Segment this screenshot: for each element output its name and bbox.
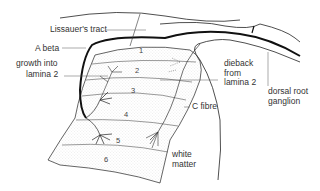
label-a-beta: A beta: [35, 43, 59, 53]
label-dieback-line1: dieback: [224, 58, 253, 68]
label-growth-line1: growth into: [16, 58, 58, 68]
spinal-cord-outline-top: [60, 12, 240, 21]
label-white-line2: matter: [172, 159, 196, 169]
label-drg-line1: dorsal root: [268, 86, 308, 96]
label-dieback-line3: lamina 2: [224, 77, 256, 87]
label-drg-line2: ganglion: [268, 96, 300, 106]
lamina-3-label: 3: [131, 86, 135, 95]
lamina-6-label: 6: [104, 155, 108, 164]
lamina-2-label: 2: [135, 66, 139, 75]
label-lissauers-tract: Lissauer's tract: [50, 24, 107, 34]
lamina-5-label: 5: [116, 136, 120, 145]
label-white-line1: white: [172, 149, 192, 159]
label-c-fibre: C fibre: [192, 101, 217, 111]
lamina-4-label: 4: [124, 110, 128, 119]
label-growth-line2: lamina 2: [26, 69, 58, 79]
lamina-1-label: 1: [139, 46, 143, 55]
